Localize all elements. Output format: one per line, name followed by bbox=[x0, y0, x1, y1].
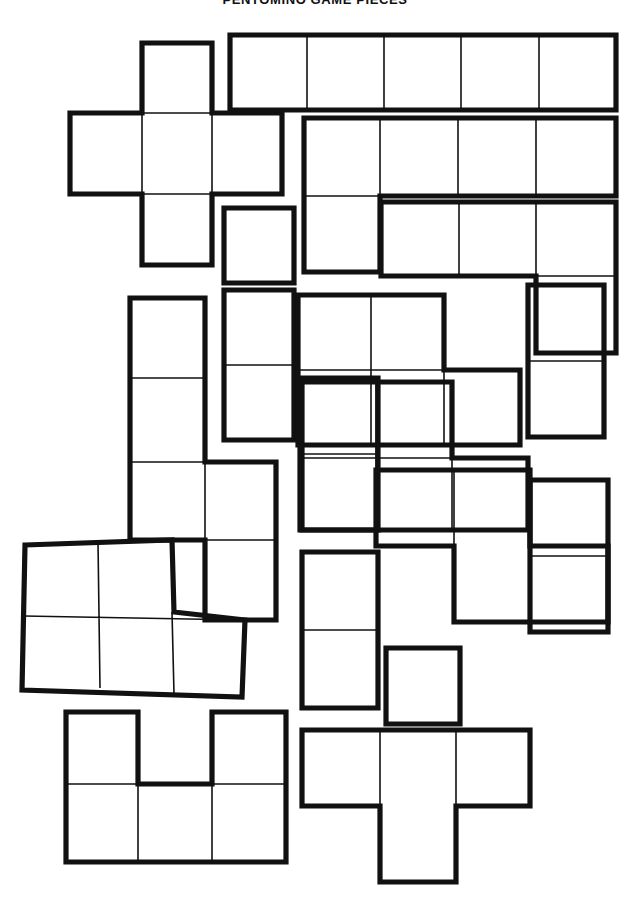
pentomino-right-column-pair[interactable] bbox=[530, 480, 608, 632]
pentomino-l-four-plus-one[interactable] bbox=[304, 118, 616, 272]
pentomino-i-straight[interactable] bbox=[230, 35, 616, 110]
pentomino-x-plus[interactable] bbox=[70, 43, 282, 265]
pentomino-middle-block[interactable] bbox=[300, 382, 528, 530]
pentomino-l-tall-right[interactable] bbox=[528, 285, 604, 437]
worksheet-page: PENTOMINO GAME PIECES bbox=[0, 0, 630, 910]
pentomino-u-shape[interactable] bbox=[66, 712, 286, 862]
pentomino-left-lower-column[interactable] bbox=[302, 552, 378, 708]
pentomino-step-center[interactable] bbox=[298, 295, 520, 445]
pentomino-y-offset-tail[interactable] bbox=[302, 730, 530, 882]
pentomino-center-column[interactable] bbox=[302, 378, 378, 530]
pentomino-small-block[interactable] bbox=[386, 648, 460, 724]
pentomino-n-offset-column[interactable] bbox=[130, 298, 276, 620]
pentomino-z-column[interactable] bbox=[224, 290, 294, 440]
pentomino-w-staircase[interactable] bbox=[376, 470, 608, 622]
pentomino-p-skewed[interactable] bbox=[22, 540, 245, 697]
pentomino-pieces-canvas bbox=[0, 0, 630, 910]
pentomino-p-right[interactable] bbox=[381, 202, 616, 353]
pentomino-z-zigzag[interactable] bbox=[224, 208, 294, 283]
